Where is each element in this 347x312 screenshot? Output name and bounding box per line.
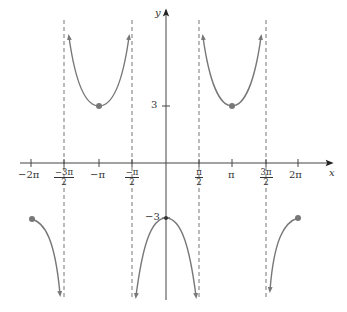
- branch-5: [270, 218, 298, 290]
- axes: [20, 10, 332, 300]
- point-2pi: [295, 215, 301, 221]
- y-axis-label: y: [155, 7, 161, 18]
- y-tick-neg3: −3: [145, 211, 160, 222]
- point-neg2pi: [29, 216, 35, 222]
- x-tick-negpi2: −π 2: [121, 168, 143, 187]
- x-axis-label: x: [329, 167, 335, 178]
- x-tick-pi: π: [228, 169, 235, 180]
- x-tick-pi2: π 2: [188, 168, 210, 187]
- x-tick-neg3pi2: −3π 2: [53, 168, 75, 187]
- x-tick-neg2pi: −2π: [18, 169, 39, 180]
- point-negpi-min: [96, 103, 102, 109]
- x-tick-3pi2: 3π 2: [255, 168, 277, 187]
- branch-4: [203, 37, 261, 106]
- branch-1: [31, 219, 60, 294]
- asymptotes: [64, 20, 266, 300]
- y-tick-3: 3: [151, 99, 157, 110]
- branch-2: [69, 37, 129, 106]
- point-pi-min: [229, 103, 235, 109]
- point-origin-max: [164, 216, 168, 220]
- plot-area: [0, 0, 347, 312]
- x-tick-2pi: 2π: [289, 169, 302, 180]
- x-tick-negpi: −π: [90, 169, 105, 180]
